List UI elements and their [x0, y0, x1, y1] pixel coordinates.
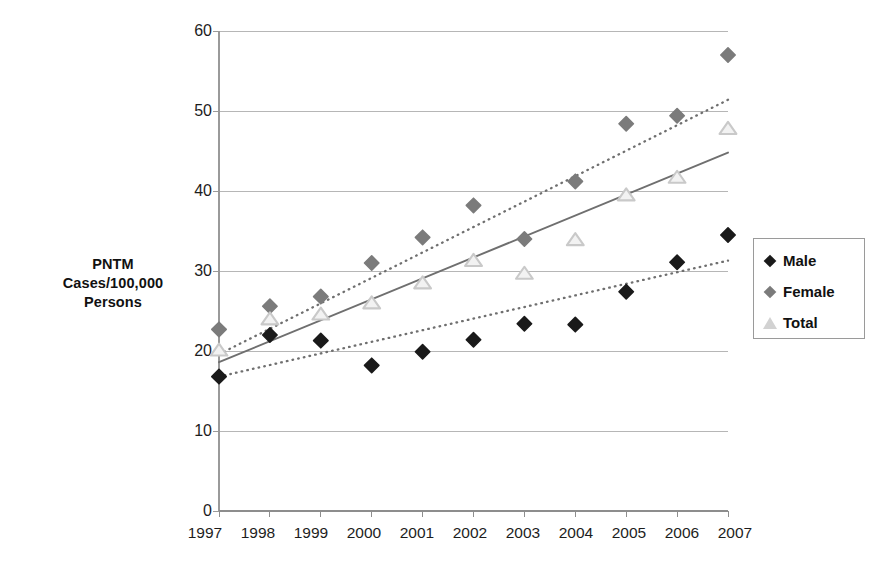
total-triangle-icon [762, 315, 778, 331]
data-point-male-1997 [212, 369, 226, 383]
legend-item-total: Total [762, 307, 864, 338]
data-point-female-2004 [568, 174, 582, 188]
plot-area [0, 0, 882, 565]
data-point-male-2004 [568, 317, 582, 331]
data-point-male-2005 [619, 285, 633, 299]
data-point-total-2007 [720, 122, 737, 134]
data-point-male-1999 [314, 333, 328, 347]
data-point-female-1999 [314, 289, 328, 303]
data-point-total-1997 [211, 344, 228, 356]
data-point-total-2003 [516, 267, 533, 279]
data-point-male-2002 [466, 333, 480, 347]
gridlines [219, 31, 728, 431]
data-point-male-2000 [365, 358, 379, 372]
legend: Male Female Total [753, 238, 865, 339]
data-point-total-2004 [567, 233, 584, 245]
male-diamond-icon [762, 253, 778, 269]
data-point-male-2007 [721, 228, 735, 242]
data-point-total-1998 [262, 312, 279, 324]
data-point-female-1998 [263, 299, 277, 313]
female-diamond-icon [762, 284, 778, 300]
legend-item-male: Male [762, 245, 864, 276]
data-point-total-2001 [414, 276, 431, 288]
legend-label-total: Total [783, 315, 818, 330]
data-point-male-2001 [415, 345, 429, 359]
data-point-male-2006 [670, 255, 684, 269]
pntm-incidence-chart: PNTM Cases/100,000 Persons 60 50 40 30 2… [0, 0, 882, 565]
legend-label-male: Male [783, 253, 816, 268]
data-point-female-2001 [415, 230, 429, 244]
data-point-female-2002 [466, 198, 480, 212]
data-point-female-2005 [619, 117, 633, 131]
data-point-female-2000 [365, 256, 379, 270]
legend-label-female: Female [783, 284, 835, 299]
axis-ticks [213, 31, 728, 517]
data-point-total-2005 [618, 188, 635, 200]
data-point-female-2007 [721, 48, 735, 62]
data-point-male-2003 [517, 317, 531, 331]
legend-item-female: Female [762, 276, 864, 307]
data-point-total-1999 [312, 308, 329, 320]
data-point-female-1997 [212, 322, 226, 336]
